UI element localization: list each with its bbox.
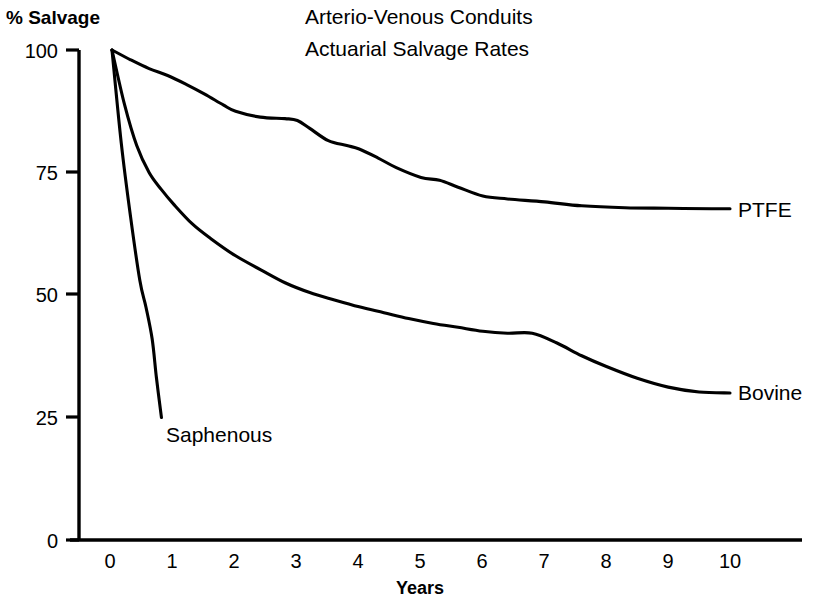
x-tick-label-0: 0 <box>104 550 115 572</box>
x-tick-label-10: 10 <box>719 550 741 572</box>
series-label-bovine: Bovine <box>738 381 802 404</box>
chart-subtitle: Actuarial Salvage Rates <box>305 37 529 60</box>
series-label-saphenous: Saphenous <box>166 423 272 446</box>
y-tick-label-100: 100 <box>25 40 58 62</box>
y-tick-label-50: 50 <box>36 284 58 306</box>
series-line-bovine <box>112 50 730 393</box>
y-axis-title: % Salvage <box>6 7 100 28</box>
x-tick-label-1: 1 <box>166 550 177 572</box>
x-tick-label-3: 3 <box>290 550 301 572</box>
x-axis-title: Years <box>396 578 444 598</box>
x-tick-label-6: 6 <box>476 550 487 572</box>
y-tick-label-75: 75 <box>36 162 58 184</box>
x-tick-label-5: 5 <box>414 550 425 572</box>
chart-canvas: % Salvage 100 75 50 25 0 0 1 2 3 4 5 6 7… <box>0 0 815 603</box>
x-tick-label-8: 8 <box>600 550 611 572</box>
x-tick-label-4: 4 <box>352 550 363 572</box>
chart-title: Arterio-Venous Conduits <box>305 5 533 28</box>
y-tick-label-0: 0 <box>47 530 58 552</box>
x-tick-label-7: 7 <box>538 550 549 572</box>
series-line-ptfe <box>112 50 730 209</box>
x-tick-label-9: 9 <box>662 550 673 572</box>
y-tick-label-25: 25 <box>36 407 58 429</box>
series-line-saphenous <box>112 50 161 418</box>
chart-figure: % Salvage 100 75 50 25 0 0 1 2 3 4 5 6 7… <box>0 0 815 603</box>
series-label-ptfe: PTFE <box>738 198 792 221</box>
x-tick-label-2: 2 <box>228 550 239 572</box>
